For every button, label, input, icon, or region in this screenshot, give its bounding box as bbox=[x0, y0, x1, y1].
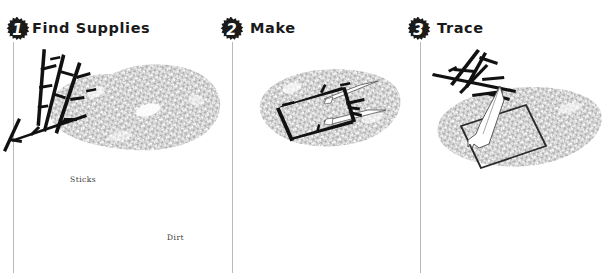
hand-tracing-square-in-dirt-icon bbox=[420, 48, 612, 279]
step-title-2: Make bbox=[250, 20, 296, 36]
stick-square-frame-on-dirt-icon bbox=[232, 48, 420, 279]
step-art-1 bbox=[0, 48, 232, 279]
dirt-patch-3 bbox=[420, 68, 612, 188]
step-badge-number-1: 1 bbox=[4, 17, 31, 44]
dirt-patch-2 bbox=[242, 58, 420, 168]
step-panel-2: 2 Make bbox=[232, 0, 420, 279]
step-panel-3: 3 Trace bbox=[420, 0, 612, 279]
step-badge-number-3: 3 bbox=[405, 17, 432, 44]
step-art-3 bbox=[420, 48, 612, 279]
tutorial-sheet: 1 Find Supplies bbox=[0, 0, 612, 279]
step-panel-1: 1 Find Supplies bbox=[0, 0, 232, 279]
step-badge-number-2: 2 bbox=[218, 17, 245, 44]
step-title-3: Trace bbox=[437, 20, 484, 36]
step-badge-3: 3 bbox=[405, 17, 432, 44]
step-badge-1: 1 bbox=[4, 17, 31, 44]
caption-dirt: Dirt bbox=[167, 233, 184, 242]
step-art-2 bbox=[232, 48, 420, 279]
step-badge-2: 2 bbox=[218, 17, 245, 44]
step-title-1: Find Supplies bbox=[32, 20, 150, 36]
stick-pile-and-dirt-patch-icon bbox=[0, 48, 232, 279]
caption-sticks: Sticks bbox=[70, 175, 96, 184]
